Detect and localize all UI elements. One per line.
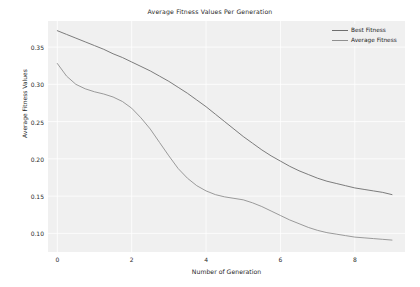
chart-title: Average Fitness Values Per Generation bbox=[0, 8, 420, 15]
gridlines bbox=[48, 21, 405, 252]
legend-item-0[interactable]: Best Fitness bbox=[332, 26, 397, 34]
x-tick-label: 6 bbox=[265, 256, 295, 263]
chart-figure: Average Fitness Values Per Generation 0.… bbox=[0, 0, 420, 287]
y-tick-label: 0.15 bbox=[4, 193, 44, 200]
plot-area bbox=[48, 21, 405, 252]
x-tick-label: 0 bbox=[42, 256, 72, 263]
series-lines bbox=[57, 31, 392, 240]
plot-svg bbox=[48, 21, 405, 252]
legend-label: Best Fitness bbox=[351, 27, 386, 33]
legend-line-swatch bbox=[332, 40, 348, 41]
x-axis-label: Number of Generation bbox=[48, 268, 405, 275]
y-axis-label: Average Fitness Values bbox=[21, 34, 28, 174]
chart-legend: Best FitnessAverage Fitness bbox=[330, 24, 400, 46]
x-tick-label: 8 bbox=[340, 256, 370, 263]
legend-item-1[interactable]: Average Fitness bbox=[332, 36, 397, 44]
y-tick-label: 0.10 bbox=[4, 230, 44, 237]
legend-label: Average Fitness bbox=[351, 37, 397, 43]
x-tick-label: 2 bbox=[117, 256, 147, 263]
series-line-0 bbox=[57, 31, 392, 195]
x-tick-label: 4 bbox=[191, 256, 221, 263]
series-line-1 bbox=[57, 63, 392, 240]
legend-line-swatch bbox=[332, 30, 348, 31]
